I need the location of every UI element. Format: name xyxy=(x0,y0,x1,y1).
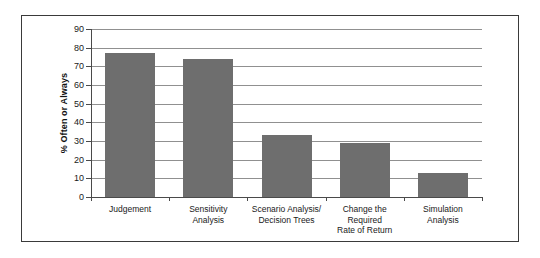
x-axis-category-label: Judgement xyxy=(91,204,169,215)
x-tick xyxy=(404,197,405,201)
y-tick-label: 70 xyxy=(74,62,84,71)
x-tick xyxy=(169,197,170,201)
x-axis-category-label-line: Decision Trees xyxy=(247,215,325,226)
x-axis-category-label-line: Analysis xyxy=(169,215,247,226)
bar xyxy=(105,53,155,197)
y-axis-title: % Often or Always xyxy=(57,29,71,197)
gridline xyxy=(91,48,482,49)
x-tick xyxy=(482,197,483,201)
y-tick-label: 0 xyxy=(79,193,84,202)
y-tick xyxy=(86,29,91,30)
bar xyxy=(262,135,312,197)
x-axis-category-label-line: Judgement xyxy=(91,204,169,215)
x-axis-labels: JudgementSensitivityAnalysisScenario Ana… xyxy=(91,204,483,240)
y-tick xyxy=(86,85,91,86)
x-axis-category-label-line: Simulation xyxy=(404,204,482,215)
x-axis-category-label-line: Rate of Return xyxy=(326,225,404,236)
y-tick xyxy=(86,66,91,67)
y-tick-label: 80 xyxy=(74,43,84,52)
y-axis: 9080706050403020100 xyxy=(91,29,92,198)
y-tick-label: 10 xyxy=(74,174,84,183)
x-axis-category-label-line: Scenario Analysis/ xyxy=(247,204,325,215)
y-axis-title-label: % Often or Always xyxy=(59,73,69,153)
y-tick xyxy=(86,122,91,123)
y-tick-label: 20 xyxy=(74,155,84,164)
x-tick xyxy=(247,197,248,201)
y-tick-label: 30 xyxy=(74,137,84,146)
bar xyxy=(418,173,468,197)
y-tick xyxy=(86,141,91,142)
x-axis-category-label-line: Analysis xyxy=(404,215,482,226)
x-axis-category-label: SensitivityAnalysis xyxy=(169,204,247,225)
bar xyxy=(340,143,390,197)
x-axis-category-label: Scenario Analysis/Decision Trees xyxy=(247,204,325,225)
bar xyxy=(183,59,233,197)
x-axis-category-label: SimulationAnalysis xyxy=(404,204,482,225)
y-tick-label: 90 xyxy=(74,25,84,34)
plot-area xyxy=(91,29,482,197)
x-axis-category-label-line: Change the Required xyxy=(326,204,404,225)
x-tick xyxy=(91,197,92,201)
y-tick xyxy=(86,104,91,105)
chart-figure-frame: % Often or Always 9080706050403020100 Ju… xyxy=(21,15,519,242)
x-axis-ticks xyxy=(91,197,483,202)
gridline xyxy=(91,29,482,30)
y-tick xyxy=(86,48,91,49)
x-axis-category-label-line: Sensitivity xyxy=(169,204,247,215)
y-tick-label: 60 xyxy=(74,81,84,90)
y-tick-label: 50 xyxy=(74,99,84,108)
y-tick xyxy=(86,178,91,179)
y-tick xyxy=(86,160,91,161)
x-axis-category-label: Change the RequiredRate of Return xyxy=(326,204,404,236)
y-tick-label: 40 xyxy=(74,118,84,127)
x-tick xyxy=(326,197,327,201)
